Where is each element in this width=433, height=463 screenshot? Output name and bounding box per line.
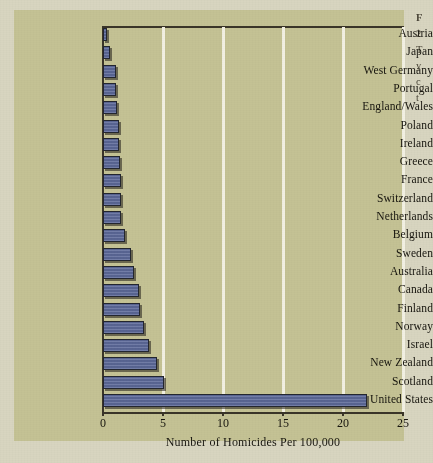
clipped-caption-text: F2Tycth — [416, 10, 433, 106]
bar — [103, 376, 164, 389]
bar — [103, 394, 367, 407]
category-label: Netherlands — [335, 210, 433, 222]
bar — [103, 321, 144, 334]
category-label: Canada — [335, 283, 433, 295]
bar — [103, 83, 116, 96]
category-label: Finland — [335, 302, 433, 314]
x-tick-label-15: 15 — [263, 416, 303, 431]
category-label: New Zealand — [335, 356, 433, 368]
figure-container: AustriaJapanWest GermanyPortugalEngland/… — [0, 0, 433, 463]
x-tick-label-5: 5 — [143, 416, 183, 431]
caption-line: c — [416, 74, 433, 90]
category-label: Israel — [335, 338, 433, 350]
bar — [103, 266, 134, 279]
chart-axes: AustriaJapanWest GermanyPortugalEngland/… — [0, 0, 433, 463]
bar — [103, 156, 120, 169]
caption-line: 2 — [416, 26, 433, 42]
bar — [103, 303, 140, 316]
category-label: Norway — [335, 320, 433, 332]
bar — [103, 120, 119, 133]
bar — [103, 229, 125, 242]
x-tick-label-25: 25 — [383, 416, 423, 431]
gridline-10 — [222, 27, 225, 412]
category-label: Australia — [335, 265, 433, 277]
category-label: Scotland — [335, 375, 433, 387]
category-label: France — [335, 173, 433, 185]
bar — [103, 339, 149, 352]
category-label: Ireland — [335, 137, 433, 149]
bar — [103, 211, 121, 224]
bar — [103, 138, 119, 151]
category-label: Greece — [335, 155, 433, 167]
caption-line: T — [416, 42, 433, 58]
caption-line: t — [416, 90, 433, 106]
x-tick-label-20: 20 — [323, 416, 363, 431]
x-tick-label-10: 10 — [203, 416, 243, 431]
category-label: Switzerland — [335, 192, 433, 204]
bar — [103, 101, 117, 114]
bar — [103, 46, 110, 59]
bar — [103, 357, 157, 370]
category-label: Belgium — [335, 228, 433, 240]
category-label: United States — [335, 393, 433, 405]
gridline-15 — [282, 27, 285, 412]
bar — [103, 65, 116, 78]
gridline-5 — [162, 27, 165, 412]
x-axis-line — [103, 412, 404, 414]
x-axis-title: Number of Homicides Per 100,000 — [103, 435, 403, 450]
bar — [103, 248, 131, 261]
x-tick-label-0: 0 — [83, 416, 123, 431]
category-label: Poland — [335, 119, 433, 131]
bar — [103, 284, 139, 297]
bar — [103, 28, 107, 41]
category-label: Sweden — [335, 247, 433, 259]
bar — [103, 174, 121, 187]
caption-line: F — [416, 10, 433, 26]
bar — [103, 193, 121, 206]
caption-line: y — [416, 58, 433, 74]
